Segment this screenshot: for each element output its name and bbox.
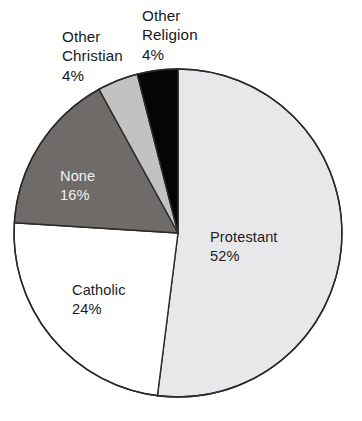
- pie-chart: Other Christian 4% Other Religion 4% Pro…: [0, 0, 362, 421]
- slice-label-protestant: Protestant 52%: [210, 228, 278, 266]
- slice-label-catholic: Catholic 24%: [72, 281, 126, 319]
- callout-label-other-religion: Other Religion 4%: [142, 6, 198, 64]
- slice-label-none: None 16%: [60, 167, 95, 205]
- callout-label-other-christian: Other Christian 4%: [62, 27, 123, 85]
- pie-slice-group: [14, 69, 342, 397]
